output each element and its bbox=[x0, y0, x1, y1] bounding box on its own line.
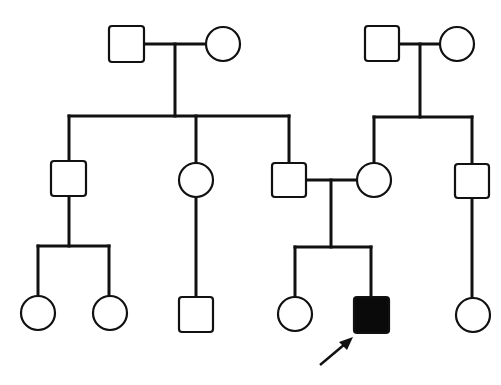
generation-3 bbox=[21, 296, 490, 333]
affected-male-symbol-III-5[interactable] bbox=[354, 297, 389, 333]
pedigree-chart bbox=[0, 0, 501, 385]
male-symbol-II-5[interactable] bbox=[455, 164, 489, 198]
male-symbol-I-3[interactable] bbox=[365, 26, 399, 61]
female-symbol-I-4[interactable] bbox=[440, 27, 474, 61]
male-symbol-II-1[interactable] bbox=[51, 161, 86, 196]
male-symbol-II-3[interactable] bbox=[272, 163, 306, 197]
female-symbol-II-4[interactable] bbox=[357, 163, 391, 197]
generation-2 bbox=[51, 161, 489, 298]
female-symbol-III-2[interactable] bbox=[93, 296, 127, 330]
generation-1 bbox=[109, 26, 474, 117]
female-symbol-III-6[interactable] bbox=[456, 298, 490, 332]
female-symbol-II-2[interactable] bbox=[179, 163, 213, 197]
female-symbol-I-2[interactable] bbox=[206, 27, 240, 61]
sibship-lines-gen-2 bbox=[69, 116, 472, 164]
female-symbol-III-1[interactable] bbox=[21, 296, 55, 330]
proband-arrow-icon bbox=[320, 337, 353, 365]
sibship-lines-gen-3 bbox=[38, 246, 371, 297]
male-symbol-I-1[interactable] bbox=[109, 26, 144, 62]
female-symbol-III-4[interactable] bbox=[278, 297, 312, 331]
male-symbol-III-3[interactable] bbox=[179, 297, 213, 332]
